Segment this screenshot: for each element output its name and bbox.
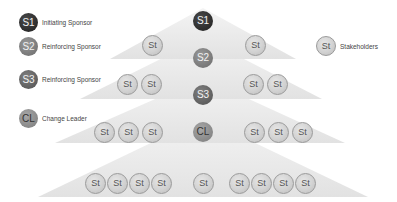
node-label: St: [199, 179, 208, 188]
node-label: St: [123, 80, 132, 89]
legend-abbr: S1: [22, 17, 34, 28]
node-stakeholder: St: [245, 35, 266, 56]
node-stakeholder: St: [141, 74, 162, 95]
node-label: St: [157, 179, 166, 188]
node-stakeholder: St: [295, 173, 316, 194]
legend-abbr: S2: [22, 41, 34, 52]
node-label: S2: [197, 53, 209, 63]
node-label: St: [100, 128, 109, 137]
legend-label: Change Leader: [42, 115, 87, 122]
legend-label: Reinforcing Sponsor: [42, 76, 101, 83]
node-label: St: [91, 179, 100, 188]
node-label: St: [279, 179, 288, 188]
legend-reinforcing-sponsor-s3: S3 Reinforcing Sponsor: [19, 70, 101, 89]
node-stakeholder: St: [129, 173, 150, 194]
stakeholder-badge-icon: St: [316, 36, 336, 56]
node-stakeholder: St: [85, 173, 106, 194]
s2-badge-icon: S2: [19, 37, 38, 56]
node-label: St: [298, 128, 307, 137]
node-reinforcing-sponsor-s3: S3: [193, 85, 213, 105]
node-stakeholder: St: [107, 173, 128, 194]
node-stakeholder: St: [251, 173, 272, 194]
node-stakeholder: St: [118, 122, 139, 143]
legend-abbr: CL: [22, 113, 35, 124]
legend-abbr: S3: [22, 74, 34, 85]
node-stakeholder: St: [244, 122, 265, 143]
node-label: CL: [197, 127, 210, 137]
node-stakeholder: St: [243, 74, 264, 95]
node-label: St: [250, 128, 259, 137]
node-stakeholder: St: [268, 122, 289, 143]
node-initiating-sponsor: S1: [193, 11, 213, 31]
node-stakeholder-center: St: [193, 173, 214, 194]
cl-badge-icon: CL: [19, 109, 38, 128]
legend-stakeholders: St Stakeholders: [316, 36, 378, 56]
node-stakeholder: St: [273, 173, 294, 194]
legend-label: Initiating Sponsor: [42, 19, 92, 26]
legend-reinforcing-sponsor-s2: S2 Reinforcing Sponsor: [19, 37, 101, 56]
s1-badge-icon: S1: [19, 13, 38, 32]
legend-label: Reinforcing Sponsor: [42, 43, 101, 50]
node-label: St: [301, 179, 310, 188]
node-label: St: [274, 128, 283, 137]
legend-initiating-sponsor: S1 Initiating Sponsor: [19, 13, 92, 32]
node-label: St: [113, 179, 122, 188]
node-label: St: [135, 179, 144, 188]
node-label: St: [148, 128, 157, 137]
node-label: S3: [197, 90, 209, 100]
legend-label: Stakeholders: [340, 43, 378, 50]
node-label: St: [273, 80, 282, 89]
node-label: St: [147, 80, 156, 89]
node-stakeholder: St: [292, 122, 313, 143]
sponsorship-hierarchy-diagram: S1 Initiating Sponsor S2 Reinforcing Spo…: [0, 0, 397, 202]
node-label: St: [251, 41, 260, 50]
node-label: S1: [197, 16, 209, 26]
node-stakeholder: St: [94, 122, 115, 143]
node-stakeholder: St: [267, 74, 288, 95]
node-label: St: [249, 80, 258, 89]
node-stakeholder: St: [117, 74, 138, 95]
node-change-leader: CL: [193, 122, 213, 142]
node-reinforcing-sponsor-s2: S2: [193, 48, 213, 68]
node-label: St: [235, 179, 244, 188]
legend-change-leader: CL Change Leader: [19, 109, 87, 128]
node-stakeholder: St: [142, 35, 163, 56]
s3-badge-icon: S3: [19, 70, 38, 89]
node-stakeholder: St: [151, 173, 172, 194]
node-label: St: [148, 41, 157, 50]
node-stakeholder: St: [142, 122, 163, 143]
node-label: St: [124, 128, 133, 137]
node-label: St: [257, 179, 266, 188]
node-stakeholder: St: [229, 173, 250, 194]
legend-abbr: St: [322, 41, 331, 51]
